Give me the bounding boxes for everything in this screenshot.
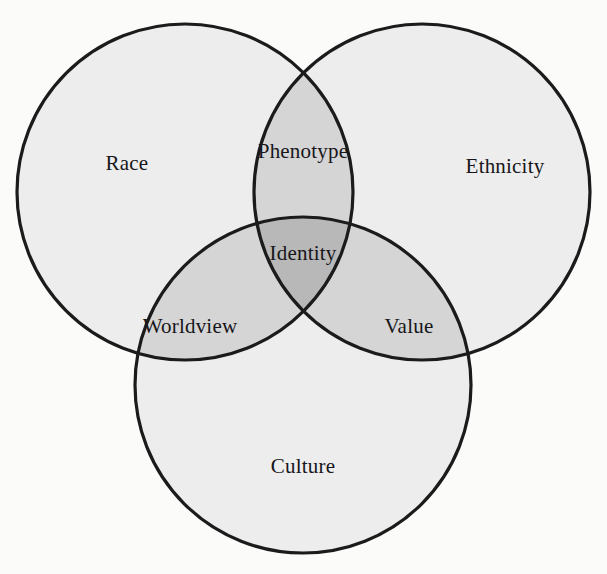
venn-diagram-figure: Race Ethnicity Phenotype Identity Worldv… [0, 0, 607, 574]
venn-diagram-canvas [0, 0, 607, 574]
label-race: Race [106, 151, 149, 176]
label-ethnicity: Ethnicity [466, 154, 545, 179]
label-value: Value [385, 314, 434, 339]
label-phenotype: Phenotype [258, 139, 348, 164]
label-identity: Identity [270, 241, 337, 266]
label-culture: Culture [271, 454, 335, 479]
label-worldview: Worldview [143, 314, 238, 339]
